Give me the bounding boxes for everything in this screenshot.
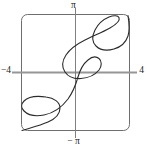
- y-axis-top-label: π: [0, 1, 147, 11]
- x-axis-right-label: 4: [139, 66, 144, 76]
- x-axis-left-label: −4: [1, 66, 11, 76]
- graph-canvas: [0, 0, 147, 147]
- plot-figure: π − π −4 4: [0, 0, 147, 147]
- y-axis-bottom-label: − π: [0, 137, 147, 147]
